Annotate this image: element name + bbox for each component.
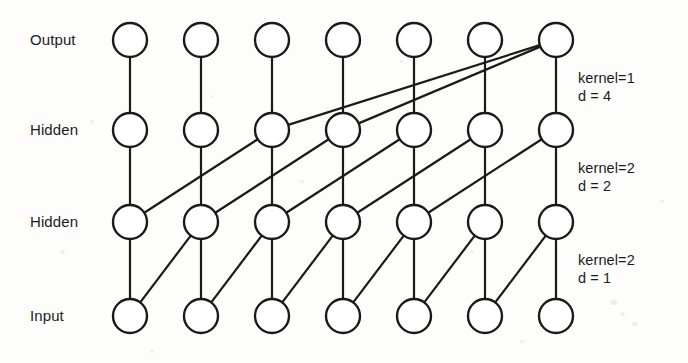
neuron-node-input-4[interactable] bbox=[397, 299, 431, 333]
neuron-node-hidden2-1[interactable] bbox=[184, 113, 218, 147]
neuron-node-input-1[interactable] bbox=[184, 299, 218, 333]
connection-edge bbox=[211, 236, 262, 303]
annotation-dilation-top: d = 4 bbox=[578, 88, 635, 104]
paper-speck bbox=[660, 200, 664, 203]
neuron-node-hidden1-0[interactable] bbox=[113, 205, 147, 239]
neuron-node-input-2[interactable] bbox=[255, 299, 289, 333]
annotation-dilation-middle: d = 2 bbox=[578, 178, 635, 194]
connection-edge bbox=[282, 236, 333, 303]
neuron-node-output-0[interactable] bbox=[113, 23, 147, 57]
neuron-node-hidden2-5[interactable] bbox=[468, 113, 502, 147]
neuron-node-hidden2-2[interactable] bbox=[255, 113, 289, 147]
paper-speck bbox=[60, 250, 65, 254]
paper-speck bbox=[400, 60, 403, 63]
annotation-bottom: kernel=2d = 1 bbox=[578, 252, 635, 286]
neuron-node-output-2[interactable] bbox=[255, 23, 289, 57]
paper-speck bbox=[300, 180, 304, 183]
neuron-node-input-5[interactable] bbox=[468, 299, 502, 333]
annotation-dilation-bottom: d = 1 bbox=[578, 270, 635, 286]
neuron-node-output-6[interactable] bbox=[539, 23, 573, 57]
neuron-node-input-6[interactable] bbox=[539, 299, 573, 333]
neuron-node-hidden1-6[interactable] bbox=[539, 205, 573, 239]
neuron-node-output-5[interactable] bbox=[468, 23, 502, 57]
paper-speck bbox=[150, 350, 154, 353]
annotation-middle: kernel=2d = 2 bbox=[578, 160, 635, 194]
neuron-node-hidden1-2[interactable] bbox=[255, 205, 289, 239]
layer-label-output: Output bbox=[30, 31, 76, 48]
paper-speck bbox=[90, 120, 93, 123]
neuron-node-hidden2-6[interactable] bbox=[539, 113, 573, 147]
connection-edge bbox=[140, 236, 191, 303]
paper-speck bbox=[210, 95, 213, 98]
paper-speck bbox=[620, 312, 625, 316]
connection-edge bbox=[495, 236, 546, 303]
layer-label-hidden1: Hidden bbox=[30, 213, 78, 230]
neuron-node-hidden1-4[interactable] bbox=[397, 205, 431, 239]
neuron-node-hidden2-4[interactable] bbox=[397, 113, 431, 147]
paper-speck bbox=[520, 340, 524, 343]
paper-speck bbox=[610, 300, 617, 305]
neuron-node-output-4[interactable] bbox=[397, 23, 431, 57]
annotation-kernel-bottom: kernel=2 bbox=[578, 252, 635, 268]
layer-label-hidden2: Hidden bbox=[30, 121, 78, 138]
neuron-node-hidden1-1[interactable] bbox=[184, 205, 218, 239]
annotation-top: kernel=1d = 4 bbox=[578, 70, 635, 104]
neuron-node-output-3[interactable] bbox=[326, 23, 360, 57]
neuron-node-hidden2-0[interactable] bbox=[113, 113, 147, 147]
neuron-node-input-3[interactable] bbox=[326, 299, 360, 333]
annotation-kernel-top: kernel=1 bbox=[578, 70, 635, 86]
figure-canvas: OutputHiddenHiddenInput kernel=1d = 4ker… bbox=[0, 0, 688, 363]
neuron-node-hidden1-5[interactable] bbox=[468, 205, 502, 239]
neuron-node-hidden1-3[interactable] bbox=[326, 205, 360, 239]
paper-speck bbox=[470, 250, 474, 253]
paper-speck bbox=[632, 322, 638, 326]
connection-edge bbox=[424, 236, 475, 303]
edges-group bbox=[130, 45, 556, 302]
connection-edge bbox=[359, 47, 541, 124]
neuron-node-input-0[interactable] bbox=[113, 299, 147, 333]
connection-edge bbox=[353, 236, 404, 303]
neuron-node-output-1[interactable] bbox=[184, 23, 218, 57]
annotation-kernel-middle: kernel=2 bbox=[578, 160, 635, 176]
neuron-node-hidden2-3[interactable] bbox=[326, 113, 360, 147]
layer-label-input: Input bbox=[30, 307, 64, 324]
